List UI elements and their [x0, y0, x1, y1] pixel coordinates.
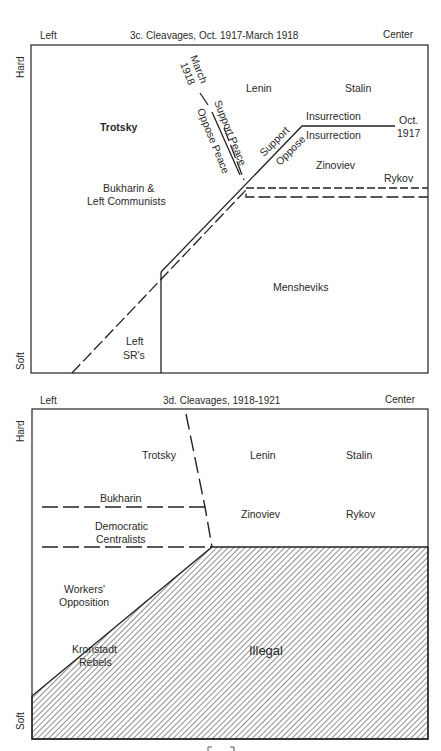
- trotsky-divider: [186, 414, 212, 547]
- diagram-title: 3c. Cleavages, Oct. 1917-March 1918: [130, 30, 299, 41]
- axis-soft-label: Soft: [15, 712, 26, 730]
- page-number-bracket: [208, 747, 234, 751]
- lenin-label: Lenin: [246, 82, 272, 94]
- oct-label: Oct.: [399, 114, 418, 126]
- workers-label: Workers': [64, 583, 105, 595]
- axis-hard-label: Hard: [15, 56, 26, 78]
- opposition-label: Opposition: [59, 596, 109, 608]
- oct-year-label: 1917: [397, 127, 421, 139]
- left-srs-label: Left: [126, 335, 144, 347]
- rykov-label: Rykov: [346, 508, 376, 520]
- axis-soft-label: Soft: [15, 352, 26, 370]
- axis-left-label: Left: [40, 395, 57, 406]
- insurrection-bottom-label: Insurrection: [306, 129, 361, 141]
- insurrection-top-label: Insurrection: [306, 110, 361, 122]
- plot-frame: [31, 45, 428, 373]
- trotsky-label: Trotsky: [100, 121, 138, 133]
- diagram-3d: Left 3d. Cleavages, 1918-1921 Center Har…: [15, 394, 428, 739]
- axis-hard-label: Hard: [15, 420, 26, 442]
- cleavages-figure: Left 3c. Cleavages, Oct. 1917-March 1918…: [0, 0, 441, 751]
- zinoviev-label: Zinoviev: [316, 159, 356, 171]
- axis-center-label: Center: [385, 394, 416, 405]
- mensheviks-label: Mensheviks: [273, 281, 328, 293]
- axis-center-label: Center: [383, 29, 414, 40]
- diagram-title: 3d. Cleavages, 1918-1921: [163, 395, 281, 406]
- kronstadt-label: Kronstadt: [72, 643, 117, 655]
- peace-line: [200, 93, 208, 105]
- democratic-label: Democratic: [95, 520, 148, 532]
- left-communists-label: Left Communists: [87, 195, 166, 207]
- illegal-label: Illegal: [249, 643, 283, 658]
- stalin-label: Stalin: [346, 449, 372, 461]
- stalin-label: Stalin: [345, 82, 371, 94]
- lenin-label: Lenin: [250, 449, 276, 461]
- rykov-label: Rykov: [384, 172, 414, 184]
- diagram-3c: Left 3c. Cleavages, Oct. 1917-March 1918…: [15, 29, 428, 373]
- left-srs-label-2: SR's: [123, 349, 145, 361]
- axis-left-label: Left: [40, 30, 57, 41]
- zinoviev-label: Zinoviev: [241, 508, 281, 520]
- insurrection-support-line: [161, 126, 395, 272]
- centralists-label: Centralists: [96, 533, 146, 545]
- trotsky-label: Trotsky: [142, 449, 177, 461]
- bukharin-label: Bukharin: [100, 492, 142, 504]
- bukharin-label: Bukharin &: [103, 182, 154, 194]
- rebels-label: Rebels: [79, 656, 112, 668]
